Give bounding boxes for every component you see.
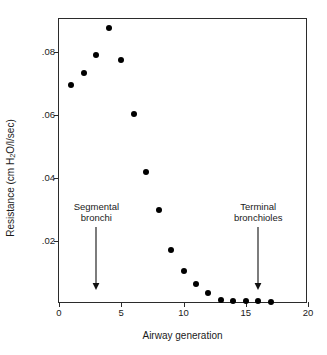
data-point: [218, 297, 224, 303]
data-point: [106, 25, 112, 31]
y-axis-title-before: Resistance (cm H: [5, 157, 16, 236]
data-point: [156, 207, 162, 213]
y-axis-title-after: O/l/sec): [5, 119, 16, 153]
x-axis-tick-label: 10: [178, 308, 189, 318]
data-point: [230, 298, 236, 304]
y-axis-tick-label: .04: [42, 173, 55, 183]
data-point: [205, 290, 211, 296]
data-point: [255, 298, 261, 304]
data-point: [168, 247, 174, 253]
annotation-line-1: Segmental: [74, 201, 119, 213]
y-axis-title: Resistance (cm H2O/l/sec): [5, 119, 17, 237]
x-axis-tick-label: 5: [119, 308, 124, 318]
data-point: [193, 281, 199, 287]
data-point: [268, 299, 274, 305]
annotation-line-2: bronchioles: [234, 212, 283, 224]
annotation-arrow-segmental-bronchi: [90, 227, 102, 290]
y-axis-tick-label: .08: [42, 47, 55, 57]
annotation-terminal-bronchioles: Terminalbronchioles: [234, 201, 283, 224]
y-axis-title-subscript: 2: [8, 153, 17, 157]
data-point: [81, 70, 87, 76]
plot-area: .02.04.06.08 05101520 SegmentalbronchiTe…: [58, 18, 307, 303]
data-point: [118, 57, 124, 63]
resistance-vs-airway-generation-figure: Resistance (cm H2O/l/sec) .02.04.06.08 0…: [0, 0, 327, 355]
y-axis-tick-label: .06: [42, 110, 55, 120]
data-point: [143, 169, 149, 175]
x-axis-title: Airway generation: [58, 330, 307, 341]
x-axis-tick-label: 20: [303, 308, 314, 318]
annotation-segmental-bronchi: Segmentalbronchi: [74, 201, 119, 224]
x-axis-tick-label: 0: [56, 308, 61, 318]
annotation-arrow-terminal-bronchioles: [252, 227, 264, 290]
annotation-line-2: bronchi: [74, 212, 119, 224]
data-point: [181, 268, 187, 274]
y-axis-tick-label: .02: [42, 236, 55, 246]
data-point: [131, 111, 137, 117]
annotation-line-1: Terminal: [234, 201, 283, 213]
data-point: [93, 52, 99, 58]
data-point: [68, 82, 74, 88]
x-axis-tick-label: 15: [240, 308, 251, 318]
